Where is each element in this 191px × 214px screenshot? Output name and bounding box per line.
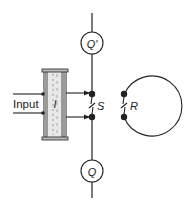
switch-s-label: S bbox=[97, 100, 105, 112]
meter-q-prime: Q' bbox=[81, 32, 103, 54]
circuit-diagram: Q' Q I Input bbox=[0, 0, 191, 214]
meter-q-label: Q bbox=[88, 166, 97, 178]
cylinder-i: I bbox=[42, 69, 68, 140]
switch-r-break-icon bbox=[121, 97, 127, 114]
node-s-upper bbox=[89, 91, 95, 97]
switch-r-label: R bbox=[130, 100, 138, 112]
node-s-lower bbox=[89, 114, 95, 120]
node-r-lower bbox=[121, 114, 127, 120]
input-terminal-upper bbox=[41, 92, 45, 96]
input-label: Input bbox=[13, 98, 39, 110]
cylinder-i-label: I bbox=[53, 98, 56, 110]
input-terminal-lower bbox=[41, 111, 45, 115]
switch-s-break-icon bbox=[89, 97, 95, 114]
meter-q-prime-label: Q' bbox=[87, 38, 99, 50]
output-wires bbox=[66, 91, 90, 120]
meter-q: Q bbox=[81, 160, 103, 182]
node-r-upper bbox=[121, 91, 127, 97]
